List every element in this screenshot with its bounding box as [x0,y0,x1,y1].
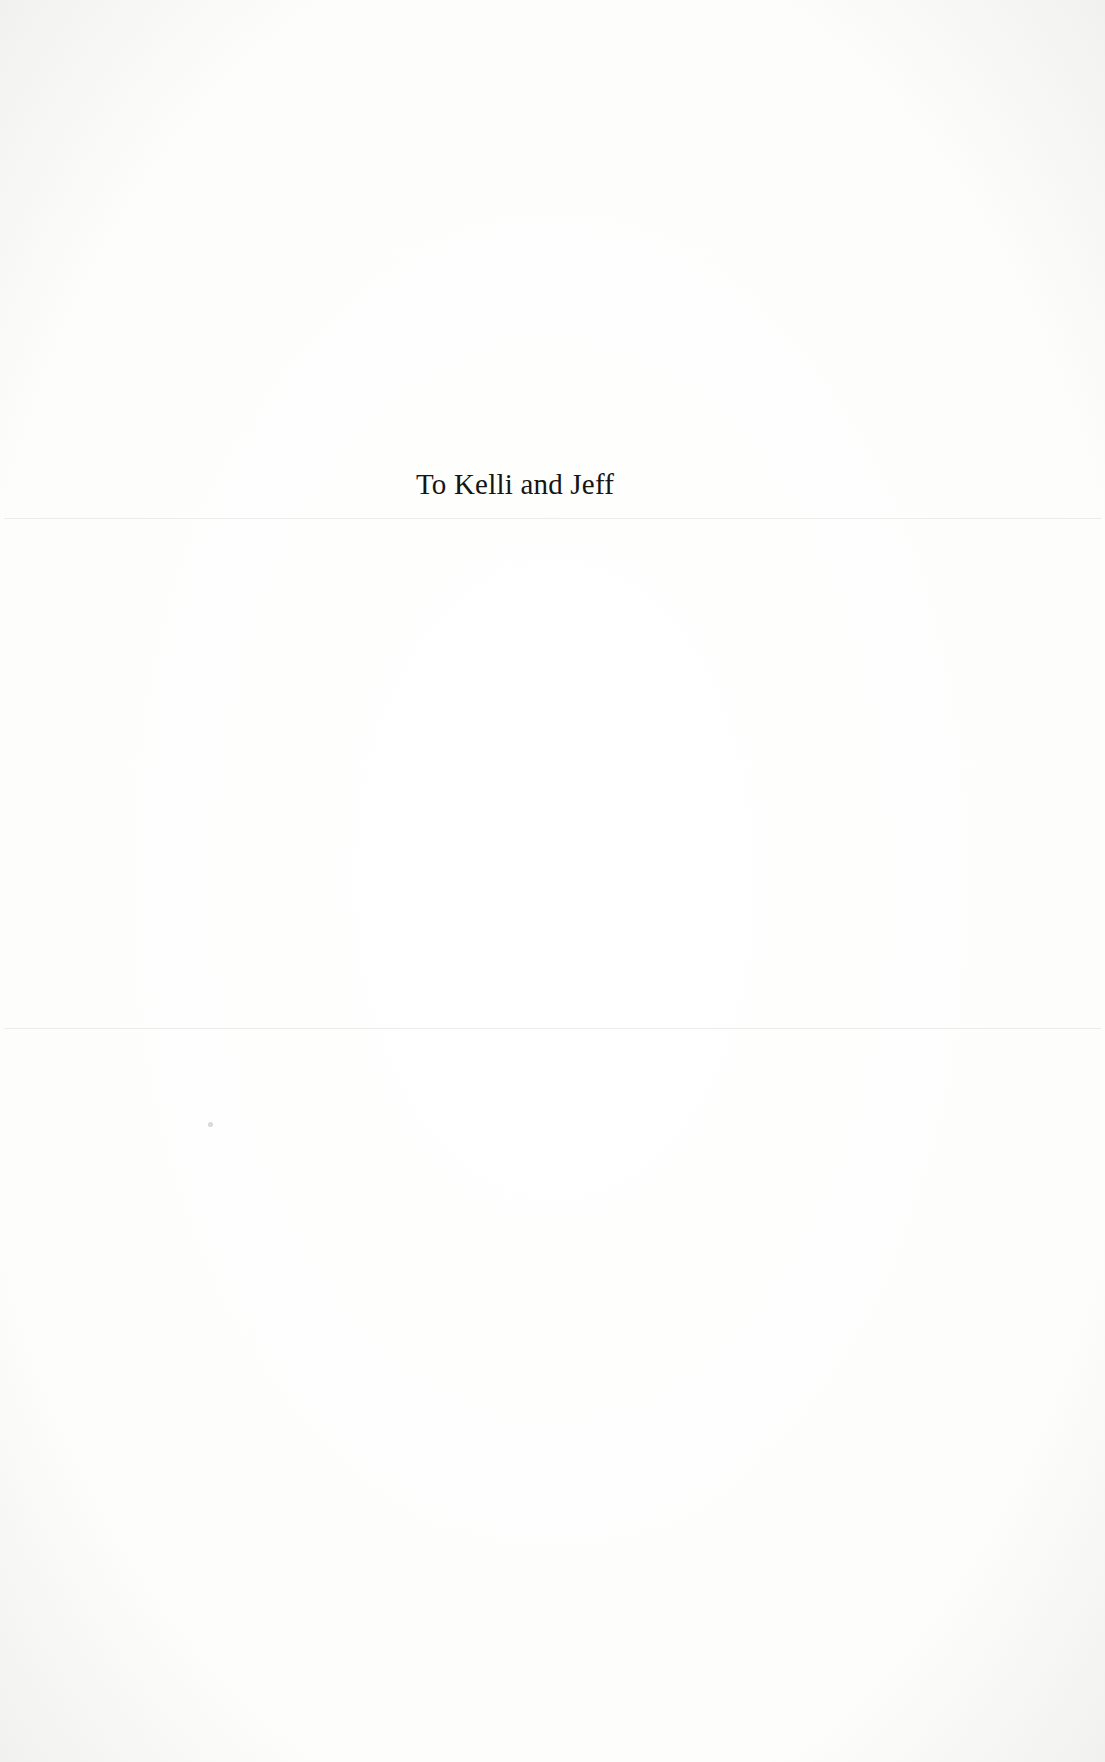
fold-line-bottom [4,1028,1101,1029]
paper-speck [208,1122,213,1127]
fold-line-top [4,518,1101,519]
book-page: To Kelli and Jeff [0,0,1105,1762]
dedication-text: To Kelli and Jeff [0,468,1030,501]
